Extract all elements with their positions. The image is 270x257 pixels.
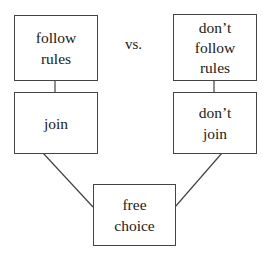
box-text: free <box>122 194 146 215</box>
box-dont-join: don’t join <box>173 92 257 154</box>
connector-right-diagonal <box>175 153 222 207</box>
box-text: join <box>44 113 68 134</box>
box-text: follow <box>195 38 235 58</box>
box-follow-rules: follow rules <box>14 15 98 81</box>
connector-left-diagonal <box>43 153 93 207</box>
versus-label: vs. <box>125 36 142 53</box>
box-text: rules <box>200 58 230 78</box>
box-text: don’t <box>199 18 231 38</box>
box-text: choice <box>114 215 154 236</box>
box-text: rules <box>41 48 71 69</box>
box-join: join <box>14 92 98 154</box>
box-text: join <box>203 123 227 144</box>
box-text: follow <box>36 27 76 48</box>
box-text: don’t <box>199 102 231 123</box>
box-free-choice: free choice <box>93 184 176 246</box>
box-dont-follow-rules: don’t follow rules <box>173 14 257 81</box>
